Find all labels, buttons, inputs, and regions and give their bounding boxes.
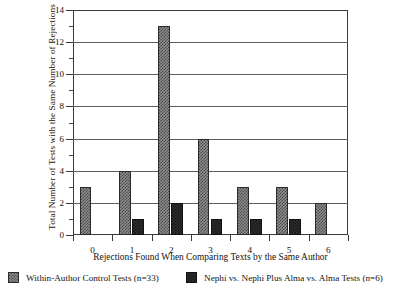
y-tick-major [66, 235, 73, 236]
y-tick-major [66, 203, 73, 204]
y-tick-major [66, 139, 73, 140]
bar [237, 187, 249, 235]
legend-swatch-icon [8, 272, 19, 283]
bar [80, 187, 92, 235]
y-tick-label: 14 [55, 5, 64, 15]
y-tick-major [66, 171, 73, 172]
bar [198, 139, 210, 235]
y-tick-label: 6 [60, 134, 65, 144]
x-axis-title: Rejections Found When Comparing Texts by… [73, 252, 348, 262]
y-tick-major [66, 106, 73, 107]
bar-chart-figure: Total Number of Tests with the Same Numb… [0, 0, 396, 291]
x-tick [309, 235, 310, 241]
x-tick [112, 235, 113, 241]
y-tick-minor [69, 90, 73, 91]
bar [276, 187, 288, 235]
chart-legend: Within-Author Control Tests (n=33) Nephi… [0, 272, 396, 288]
y-tick-major [66, 74, 73, 75]
legend-label: Nephi vs. Nephi Plus Alma vs. Alma Tests… [204, 273, 383, 283]
gridline [73, 74, 348, 75]
y-tick-label: 0 [60, 230, 65, 240]
bar [119, 171, 131, 235]
y-tick-label: 10 [55, 69, 64, 79]
y-tick-minor [69, 26, 73, 27]
x-tick [73, 235, 74, 241]
legend-entry-within-author: Within-Author Control Tests (n=33) [8, 272, 159, 283]
x-tick [230, 235, 231, 241]
x-tick [348, 235, 349, 241]
x-tick [191, 235, 192, 241]
plot-frame [73, 10, 348, 235]
y-tick-minor [69, 58, 73, 59]
bar [315, 203, 327, 235]
gridline [73, 106, 348, 107]
legend-entry-nephi-alma: Nephi vs. Nephi Plus Alma vs. Alma Tests… [186, 272, 383, 283]
y-tick-minor [69, 155, 73, 156]
bar [250, 219, 262, 235]
legend-swatch-icon [186, 272, 197, 283]
gridline [73, 139, 348, 140]
gridline [73, 171, 348, 172]
y-tick-label: 4 [60, 166, 65, 176]
y-tick-major [66, 42, 73, 43]
y-tick-label: 8 [60, 101, 65, 111]
bar [211, 219, 223, 235]
y-tick-minor [69, 123, 73, 124]
y-axis-title: Total Number of Tests with the Same Numb… [47, 0, 57, 235]
bar [132, 219, 144, 235]
y-tick-minor [69, 187, 73, 188]
bar [171, 203, 183, 235]
y-tick-label: 12 [55, 37, 64, 47]
x-tick [269, 235, 270, 241]
bar [158, 26, 170, 235]
y-tick-major [66, 10, 73, 11]
x-tick [152, 235, 153, 241]
bar [289, 219, 301, 235]
legend-label: Within-Author Control Tests (n=33) [26, 273, 159, 283]
gridline [73, 42, 348, 43]
plot-area: 02468101214 0123456 [73, 10, 348, 235]
gridline [73, 203, 348, 204]
y-tick-label: 2 [60, 198, 65, 208]
y-tick-minor [69, 219, 73, 220]
